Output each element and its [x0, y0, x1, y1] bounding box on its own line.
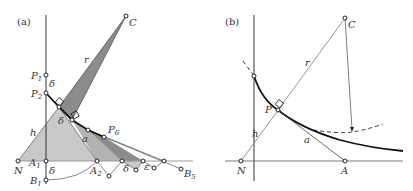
label-h-b: h — [252, 128, 258, 139]
label-delta-4: δ — [123, 163, 129, 174]
tractrix-diagram: (a) C r P1 δ P2 δ P6 h a N A1 δ A2 δ ε B… — [0, 0, 413, 191]
label-a-b: a — [304, 134, 310, 145]
label-epsilon: ε — [144, 161, 149, 172]
label-B1: B1 — [29, 175, 42, 188]
label-delta-3: δ — [49, 165, 55, 176]
label-C: C — [129, 17, 137, 28]
panel-a: (a) C r P1 δ P2 δ P6 h a N A1 δ A2 δ ε B… — [13, 14, 196, 188]
label-r: r — [84, 54, 90, 65]
label-N: N — [13, 165, 24, 176]
evolute-dashed — [313, 124, 383, 133]
label-h: h — [30, 127, 36, 138]
panel-b-label: (b) — [225, 16, 239, 27]
label-P2: P2 — [30, 88, 43, 101]
label-A2: A2 — [89, 165, 102, 178]
panel-a-label: (a) — [17, 16, 31, 27]
label-a: a — [82, 133, 88, 144]
tractrix-curve — [254, 76, 403, 151]
label-P1: P1 — [30, 70, 42, 83]
panel-b: (b) C r P h a N A — [225, 15, 403, 181]
label-delta-1: δ — [49, 78, 55, 89]
label-delta-2: δ — [58, 115, 64, 126]
label-N-b: N — [236, 165, 247, 176]
label-C-b: C — [348, 19, 356, 30]
label-P-b: P — [264, 104, 272, 115]
label-A-b: A — [340, 165, 348, 176]
label-P6: P6 — [107, 124, 120, 137]
label-B5: B5 — [183, 168, 196, 181]
radius-wedge — [59, 16, 126, 120]
